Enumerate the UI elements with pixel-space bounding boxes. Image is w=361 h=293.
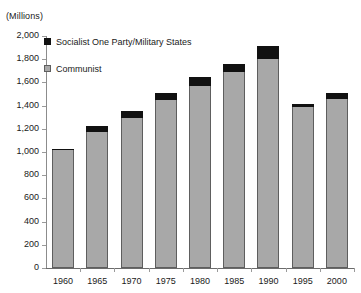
bar-segment-communist — [52, 150, 74, 268]
bar-segment-communist — [155, 100, 177, 268]
legend-label-socialist: Socialist One Party/Military States — [56, 37, 192, 47]
x-tick-label: 2000 — [317, 276, 357, 286]
bar-group — [86, 126, 108, 268]
x-tick-mark — [320, 268, 321, 272]
bar-segment-communist — [86, 132, 108, 268]
y-tick-label: 200 — [24, 239, 39, 249]
x-tick-mark — [183, 268, 184, 272]
y-axis-units-caption: (Millions) — [6, 11, 43, 21]
x-tick-mark — [251, 268, 252, 272]
gray-square-swatch — [44, 65, 51, 72]
y-tick-label: 1,800 — [16, 53, 39, 63]
bar-segment-socialist — [223, 64, 245, 72]
y-tick-mark — [42, 129, 46, 130]
y-tick-mark — [42, 175, 46, 176]
legend-item-socialist: Socialist One Party/Military States — [44, 36, 192, 47]
y-tick-label: 800 — [24, 169, 39, 179]
x-tick-mark — [114, 268, 115, 272]
y-tick-label: 0 — [34, 262, 39, 272]
bar-group — [223, 64, 245, 268]
bar-group — [189, 77, 211, 268]
chart-legend: Socialist One Party/Military States Comm… — [44, 36, 192, 90]
y-tick-mark — [42, 268, 46, 269]
bar-segment-socialist — [189, 77, 211, 86]
x-tick-mark — [354, 268, 355, 272]
y-tick-mark — [42, 222, 46, 223]
y-tick-label: 1,200 — [16, 123, 39, 133]
y-tick-label: 600 — [24, 192, 39, 202]
bar-group — [326, 93, 348, 268]
legend-label-communist: Communist — [56, 64, 102, 74]
y-tick-label: 2,000 — [16, 30, 39, 40]
bar-segment-communist — [121, 118, 143, 268]
bar-group — [257, 46, 279, 268]
bar-group — [292, 104, 314, 268]
bar-segment-communist — [292, 107, 314, 268]
y-tick-mark — [42, 152, 46, 153]
y-tick-label: 400 — [24, 216, 39, 226]
x-tick-mark — [286, 268, 287, 272]
y-tick-mark — [42, 245, 46, 246]
bar-group — [52, 149, 74, 268]
y-tick-label: 1,600 — [16, 76, 39, 86]
x-tick-mark — [217, 268, 218, 272]
bar-segment-communist — [257, 59, 279, 268]
bar-segment-communist — [223, 72, 245, 268]
y-tick-label: 1,400 — [16, 100, 39, 110]
bar-segment-communist — [326, 99, 348, 268]
x-tick-mark — [80, 268, 81, 272]
y-tick-mark — [42, 198, 46, 199]
bar-group — [155, 93, 177, 268]
x-tick-mark — [149, 268, 150, 272]
bar-segment-communist — [189, 86, 211, 268]
bar-group — [121, 111, 143, 268]
x-axis-line — [46, 268, 355, 269]
legend-item-communist: Communist — [44, 63, 192, 74]
bar-segment-socialist — [155, 93, 177, 100]
y-tick-label: 1,000 — [16, 146, 39, 156]
black-square-swatch — [44, 38, 51, 45]
bar-segment-socialist — [121, 111, 143, 118]
bar-segment-socialist — [257, 46, 279, 59]
y-tick-mark — [42, 106, 46, 107]
